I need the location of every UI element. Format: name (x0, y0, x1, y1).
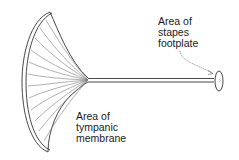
label-line: membrane (76, 133, 126, 144)
ossicle-shaft (88, 79, 214, 83)
label-line: footplate (158, 38, 198, 49)
label-tympanic-membrane: Area of tympanic membrane (76, 111, 126, 144)
stapes-footplate (215, 71, 223, 91)
label-stapes-footplate: Area of stapes footplate (158, 16, 198, 49)
stapes-pointer-arrow (180, 51, 213, 75)
